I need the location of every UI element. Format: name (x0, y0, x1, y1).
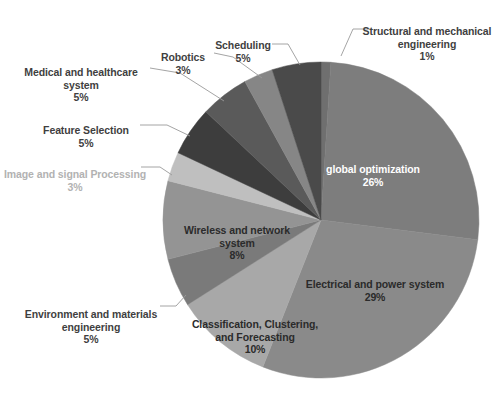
slice-label-scheduling-name: Scheduling (215, 39, 271, 51)
slice-label-wireless-name: Wireless and network system (184, 224, 290, 249)
slice-label-global-optimization-name: global optimization (326, 163, 420, 175)
slice-label-environment-percent: 5% (18, 333, 164, 346)
slice-label-electrical-name: Electrical and power system (306, 278, 445, 290)
slice-label-classification-name: Classification, Clustering, and Forecast… (192, 318, 318, 343)
slice-label-structural-name: Structural and mechanical engineering (363, 25, 492, 50)
slice-label-robotics-name: Robotics (161, 51, 205, 63)
slice-label-medical-percent: 5% (10, 91, 152, 104)
slice-label-structural-percent: 1% (356, 50, 498, 63)
slice-label-wireless-and-network-system: Wireless and network system 8% (165, 211, 309, 275)
slice-label-wireless-percent: 8% (165, 249, 309, 262)
slice-label-robotics-percent: 3% (150, 64, 216, 77)
slice-label-image-signal-percent: 3% (4, 181, 146, 194)
slice-label-environment-and-materials-engineering: Environment and materials engineering 5% (18, 295, 164, 359)
leader-line-feature (140, 125, 190, 136)
slice-label-medical-and-healthcare-system: Medical and healthcare system 5% (10, 53, 152, 117)
slice-label-scheduling: Scheduling 5% (207, 26, 279, 77)
slice-label-classification-percent: 10% (185, 343, 325, 356)
pie-chart-figure: Structural and mechanical engineering 1%… (0, 0, 501, 395)
slice-label-global-optimization-percent: 26% (305, 176, 441, 189)
slice-label-global-optimization: global optimization 26% (305, 150, 441, 201)
slice-label-robotics: Robotics 3% (150, 38, 216, 89)
slice-label-image-and-signal-processing: Image and signal Processing 3% (4, 155, 146, 206)
slice-label-scheduling-percent: 5% (207, 52, 279, 65)
slice-label-medical-name: Medical and healthcare system (24, 66, 137, 91)
slice-label-structural-and-mechanical-engineering: Structural and mechanical engineering 1% (356, 12, 498, 76)
slice-label-feature-name: Feature Selection (43, 124, 129, 136)
slice-label-image-signal-name: Image and signal Processing (4, 168, 146, 180)
slice-label-feature-percent: 5% (28, 137, 144, 150)
slice-label-electrical-and-power-system: Electrical and power system 29% (299, 265, 451, 316)
slice-label-environment-name: Environment and materials engineering (25, 308, 157, 333)
slice-label-electrical-percent: 29% (299, 291, 451, 304)
